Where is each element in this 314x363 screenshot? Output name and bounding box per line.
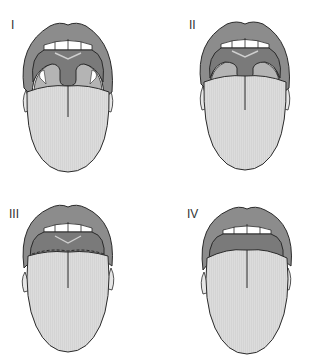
- panel-grade-1: I: [0, 0, 157, 181]
- panel-grade-3: III: [0, 180, 157, 361]
- panel-grade-2: II: [157, 0, 314, 181]
- mallampati-grade-3-illustration: [0, 180, 157, 361]
- mallampati-grade-1-illustration: [0, 0, 157, 181]
- mallampati-grade-2-illustration: [157, 0, 314, 181]
- panel-grade-4: IV: [157, 180, 314, 361]
- mallampati-grade-4-illustration: [157, 180, 314, 361]
